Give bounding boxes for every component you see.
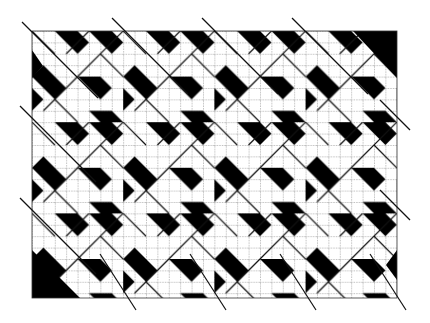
- twill-pattern-diagram: [0, 0, 430, 323]
- pattern-body: [32, 31, 397, 298]
